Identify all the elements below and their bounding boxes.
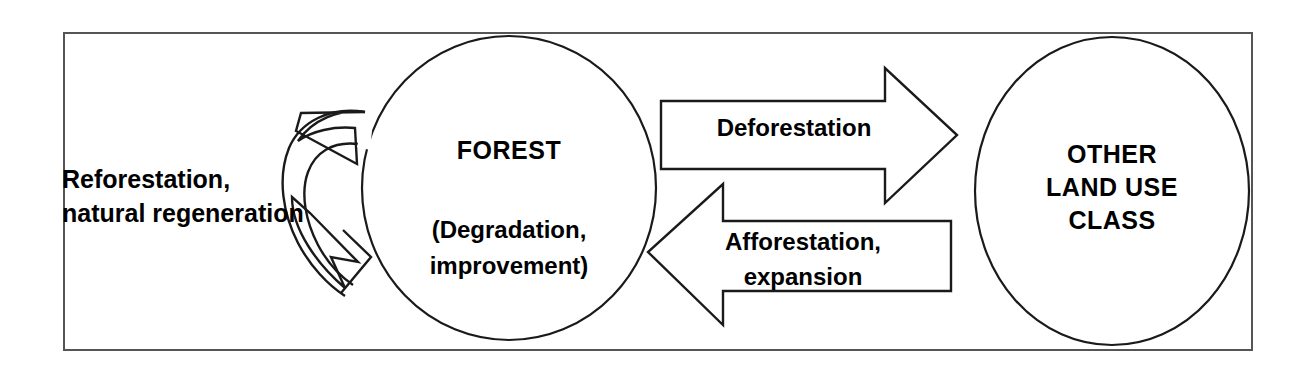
diagram-figure: Reforestation, natural regeneration FORE… bbox=[0, 0, 1311, 365]
label-afforestation-line1: Afforestation, bbox=[725, 228, 881, 255]
label-forest-title: FOREST bbox=[457, 136, 561, 164]
label-afforestation-line2: expansion bbox=[744, 263, 863, 290]
label-reforestation-line1: Reforestation, bbox=[62, 165, 230, 193]
arrow-reforestation-upper-shape bbox=[296, 111, 365, 164]
label-forest-subtitle-line2: improvement) bbox=[430, 252, 589, 279]
label-other-land-use-line2: LAND USE bbox=[1046, 173, 1178, 201]
label-forest-subtitle-line1: (Degradation, bbox=[432, 216, 587, 243]
label-deforestation: Deforestation bbox=[717, 114, 872, 141]
label-reforestation-line2: natural regeneration bbox=[62, 199, 304, 227]
label-other-land-use-line3: CLASS bbox=[1068, 206, 1155, 234]
label-other-land-use-line1: OTHER bbox=[1067, 140, 1157, 168]
diagram-canvas: Reforestation, natural regeneration FORE… bbox=[0, 0, 1311, 365]
node-forest-ellipse bbox=[362, 36, 656, 340]
